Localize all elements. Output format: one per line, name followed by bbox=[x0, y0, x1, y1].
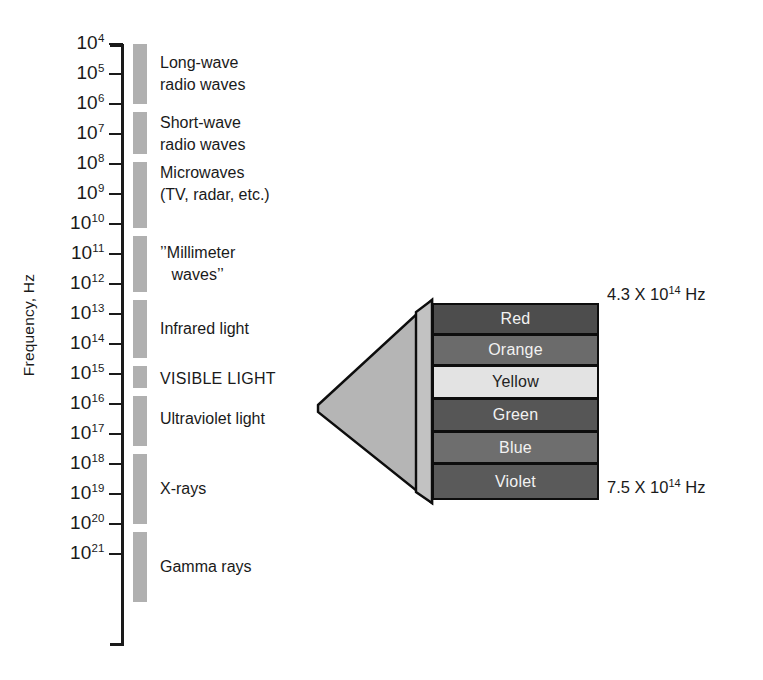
axis-tick-1012 bbox=[109, 283, 123, 286]
axis-tick-label: 1019 bbox=[0, 483, 104, 505]
axis-tick-1015 bbox=[109, 373, 123, 376]
axis-tick-label: 1018 bbox=[0, 453, 104, 475]
axis-tick-exponent: 19 bbox=[92, 482, 105, 494]
band-label-visible-light: VISIBLE LIGHT bbox=[160, 368, 276, 390]
funnel-wedge bbox=[318, 300, 432, 503]
axis-tick-label: 1013 bbox=[0, 303, 104, 325]
axis-tick-label: 1015 bbox=[0, 363, 104, 385]
axis-tick-1013 bbox=[109, 313, 123, 316]
axis-tick-label: 104 bbox=[0, 33, 104, 55]
axis-tick-exponent: 6 bbox=[98, 92, 104, 104]
axis-tick-104 bbox=[109, 43, 123, 46]
axis-tick-exponent: 12 bbox=[92, 272, 105, 284]
axis-tick-label-wrap: 107 bbox=[0, 123, 104, 143]
axis-tick-1019 bbox=[109, 493, 123, 496]
axis-tick-label: 109 bbox=[0, 183, 104, 205]
axis-tick-label-wrap: 1019 bbox=[0, 483, 104, 503]
axis-tick-label: 1017 bbox=[0, 423, 104, 445]
color-band-green: Green bbox=[432, 398, 599, 432]
axis-tick-1021 bbox=[109, 553, 123, 556]
axis-tick-exponent: 10 bbox=[92, 212, 105, 224]
axis-tick-label-wrap: 106 bbox=[0, 93, 104, 113]
axis-tick-label-wrap: 1020 bbox=[0, 513, 104, 533]
axis-tick-label: 1016 bbox=[0, 393, 104, 415]
color-band-violet: Violet bbox=[432, 463, 599, 500]
axis-tick-exponent: 11 bbox=[92, 242, 104, 254]
axis-tick-label: 1012 bbox=[0, 273, 104, 295]
callout-exponent: 14 bbox=[668, 477, 680, 489]
axis-tick-label: 1014 bbox=[0, 333, 104, 355]
band-microwaves bbox=[133, 162, 147, 228]
color-band-blue: Blue bbox=[432, 431, 599, 464]
axis-tick-exponent: 7 bbox=[98, 122, 104, 134]
axis-tick-exponent: 21 bbox=[92, 542, 105, 554]
band-label-x-rays: X-rays bbox=[160, 478, 206, 500]
axis-tick-label-wrap: 1010 bbox=[0, 213, 104, 233]
band-label-infrared-light: Infrared light bbox=[160, 318, 249, 340]
band-visible-light bbox=[133, 366, 147, 388]
axis-tick-108 bbox=[109, 163, 123, 166]
axis-tick-label: 1010 bbox=[0, 213, 104, 235]
band-label-ultraviolet-light: Ultraviolet light bbox=[160, 408, 265, 430]
axis-tick-label: 1020 bbox=[0, 513, 104, 535]
band-label-short-wave-radio-waves: Short-wave radio waves bbox=[160, 112, 245, 155]
axis-tick-label-wrap: 1016 bbox=[0, 393, 104, 413]
axis-tick-exponent: 8 bbox=[98, 152, 104, 164]
axis-tick-1020 bbox=[109, 523, 123, 526]
callout-frequency-red: 4.3 X 1014 Hz bbox=[607, 285, 705, 304]
axis-tick-exponent: 20 bbox=[92, 512, 105, 524]
prism-side-face bbox=[416, 300, 432, 503]
color-band-yellow: Yellow bbox=[432, 365, 599, 399]
axis-tick-label-wrap: 1015 bbox=[0, 363, 104, 383]
axis-cap-bottom bbox=[110, 643, 123, 646]
axis-tick-label-wrap: 109 bbox=[0, 183, 104, 203]
band-gamma-rays bbox=[133, 532, 147, 602]
band-x-rays bbox=[133, 454, 147, 524]
axis-tick-107 bbox=[109, 133, 123, 136]
axis-tick-1010 bbox=[109, 223, 123, 226]
axis-tick-label: 107 bbox=[0, 123, 104, 145]
band-label-millimeter-waves: ’’Millimeter waves’’ bbox=[160, 242, 235, 285]
axis-tick-exponent: 16 bbox=[92, 392, 105, 404]
band-millimeter-waves bbox=[133, 236, 147, 292]
band-short-wave-radio-waves bbox=[133, 112, 147, 154]
electromagnetic-spectrum-figure: Frequency, Hz 10410510610710810910101011… bbox=[0, 0, 763, 680]
band-label-long-wave-radio-waves: Long-wave radio waves bbox=[160, 52, 245, 95]
axis-tick-label: 108 bbox=[0, 153, 104, 175]
axis-tick-109 bbox=[109, 193, 123, 196]
axis-tick-105 bbox=[109, 73, 123, 76]
axis-tick-exponent: 14 bbox=[92, 332, 105, 344]
axis-tick-label-wrap: 1012 bbox=[0, 273, 104, 293]
axis-tick-106 bbox=[109, 103, 123, 106]
axis-tick-label: 105 bbox=[0, 63, 104, 85]
callout-frequency-violet: 7.5 X 1014 Hz bbox=[607, 478, 705, 497]
band-ultraviolet-light bbox=[133, 396, 147, 446]
axis-tick-label-wrap: 1014 bbox=[0, 333, 104, 353]
color-band-orange: Orange bbox=[432, 334, 599, 366]
axis-tick-label: 1011 bbox=[0, 243, 104, 265]
axis-tick-exponent: 13 bbox=[92, 302, 105, 314]
axis-tick-1011 bbox=[109, 253, 123, 256]
band-label-microwaves: Microwaves (TV, radar, etc.) bbox=[160, 162, 270, 205]
axis-tick-1017 bbox=[109, 433, 123, 436]
axis-tick-exponent: 17 bbox=[92, 422, 105, 434]
axis-tick-label-wrap: 1018 bbox=[0, 453, 104, 473]
axis-tick-label-wrap: 105 bbox=[0, 63, 104, 83]
axis-tick-exponent: 18 bbox=[92, 452, 105, 464]
axis-tick-1018 bbox=[109, 463, 123, 466]
axis-tick-exponent: 5 bbox=[98, 62, 104, 74]
axis-tick-1016 bbox=[109, 403, 123, 406]
axis-tick-label-wrap: 1017 bbox=[0, 423, 104, 443]
axis-tick-exponent: 15 bbox=[92, 362, 105, 374]
band-label-gamma-rays: Gamma rays bbox=[160, 556, 252, 578]
axis-tick-label-wrap: 104 bbox=[0, 33, 104, 53]
axis-tick-label-wrap: 1021 bbox=[0, 543, 104, 563]
callout-exponent: 14 bbox=[668, 284, 680, 296]
axis-tick-exponent: 9 bbox=[98, 182, 104, 194]
color-band-red: Red bbox=[432, 303, 599, 335]
axis-tick-label: 1021 bbox=[0, 543, 104, 565]
axis-tick-label: 106 bbox=[0, 93, 104, 115]
axis-tick-exponent: 4 bbox=[98, 32, 104, 44]
axis-tick-label-wrap: 1013 bbox=[0, 303, 104, 323]
axis-tick-label-wrap: 108 bbox=[0, 153, 104, 173]
